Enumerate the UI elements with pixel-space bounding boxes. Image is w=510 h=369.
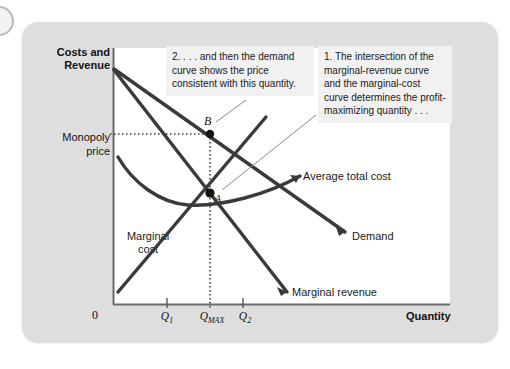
diagram-vector-layer (0, 0, 510, 369)
curve-demand (114, 69, 345, 232)
point-marker-a (205, 188, 214, 197)
figure-canvas: Costs and Revenue Quantity Monopoly pric… (0, 0, 510, 369)
leader-line-callout-2 (216, 100, 246, 122)
point-marker-b (206, 130, 214, 138)
curve-marginal-revenue (114, 70, 287, 292)
